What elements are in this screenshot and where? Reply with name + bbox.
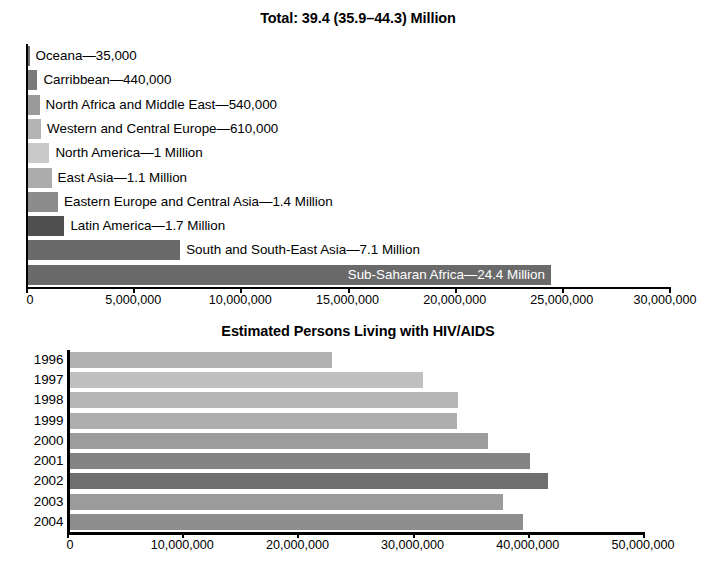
y-tick-label: 2001	[34, 451, 64, 471]
x-tick-label: 20,000,000	[266, 538, 329, 552]
x-tick-label: 10,000,000	[209, 293, 272, 307]
bar-row: Eastern Europe and Central Asia—1.4 Mill…	[28, 190, 669, 214]
bar-row: Latin America—1.7 Million	[28, 214, 669, 238]
x-tick-label: 25,000,000	[530, 293, 593, 307]
bar-row: North Africa and Middle East—540,000	[28, 93, 669, 117]
bar-data-label: East Asia—1.1 Million	[58, 167, 188, 188]
bar	[28, 70, 37, 90]
bar-row: 2004	[70, 512, 644, 532]
bar-row: Carribbean—440,000	[28, 68, 669, 92]
bar	[70, 392, 458, 408]
bar	[28, 168, 52, 188]
bar-row: Sub-Saharan Africa—24.4 Million	[28, 263, 669, 287]
x-tick-label: 20,000,000	[423, 293, 486, 307]
x-tick-label: 40,000,000	[496, 538, 559, 552]
bar	[28, 119, 41, 139]
x-tick-label: 50,000,000	[611, 538, 674, 552]
bar	[70, 494, 503, 510]
y-tick-label: 2000	[34, 431, 64, 451]
chart-top-x-axis-ticks: 05,000,00010,000,00015,000,00020,000,000…	[26, 287, 671, 313]
x-tick-label: 15,000,000	[316, 293, 379, 307]
x-tick-label: 10,000,000	[151, 538, 214, 552]
bar-data-label: Latin America—1.7 Million	[70, 215, 225, 236]
chart-regional-hiv: Total: 39.4 (35.9–44.3) Million Oceana—3…	[0, 0, 716, 312]
bar	[70, 473, 548, 489]
x-tick-label: 30,000,000	[381, 538, 444, 552]
bar-row: 2002	[70, 471, 644, 491]
bar	[28, 192, 58, 212]
bar-row: 2003	[70, 492, 644, 512]
bar-row: 1998	[70, 390, 644, 410]
y-tick-label: 2002	[34, 471, 64, 491]
y-tick-label: 1996	[34, 350, 64, 370]
bar	[28, 143, 49, 163]
x-tick-label: 0	[26, 293, 33, 307]
bar-data-label: Sub-Saharan Africa—24.4 Million	[28, 264, 551, 285]
bar	[70, 372, 424, 388]
bar-data-label: North Africa and Middle East—540,000	[46, 94, 278, 115]
bar	[28, 216, 64, 236]
bar	[28, 46, 30, 66]
chart-bottom-title: Estimated Persons Living with HIV/AIDS	[0, 323, 716, 339]
bar-row: 1996	[70, 350, 644, 370]
x-tick-label: 0	[66, 538, 73, 552]
bar-row: Western and Central Europe—610,000	[28, 117, 669, 141]
chart-bottom-x-axis-ticks: 010,000,00020,000,00030,000,00040,000,00…	[67, 532, 645, 558]
y-tick-label: 2003	[34, 492, 64, 512]
bar-data-label: Oceana—35,000	[36, 45, 137, 66]
bar	[70, 413, 457, 429]
chart-top-title: Total: 39.4 (35.9–44.3) Million	[0, 10, 716, 26]
chart-bottom-plot-area: 199619971998199920002001200220032004	[67, 350, 643, 532]
bar-data-label: South and South-East Asia—7.1 Million	[186, 239, 420, 260]
bar	[70, 453, 531, 469]
bar-data-label: North America—1 Million	[55, 142, 202, 163]
y-tick-label: 1999	[34, 411, 64, 431]
y-tick-label: 2004	[34, 512, 64, 532]
bar-row: North America—1 Million	[28, 141, 669, 165]
chart-global-hiv-trend: Estimated Persons Living with HIV/AIDS 1…	[0, 318, 716, 574]
figure: Total: 39.4 (35.9–44.3) Million Oceana—3…	[0, 0, 716, 574]
bar	[28, 240, 180, 260]
x-tick-label: 5,000,000	[105, 293, 161, 307]
bar-data-label: Eastern Europe and Central Asia—1.4 Mill…	[64, 191, 333, 212]
bar-data-label: Western and Central Europe—610,000	[47, 118, 278, 139]
bar	[70, 514, 524, 530]
y-tick-label: 1997	[34, 370, 64, 390]
bar-row: 2001	[70, 451, 644, 471]
bar-row: 1999	[70, 411, 644, 431]
bar	[28, 95, 40, 115]
x-tick-label: 30,000,000	[633, 293, 696, 307]
bar	[70, 352, 333, 368]
bar-row: East Asia—1.1 Million	[28, 166, 669, 190]
bar	[70, 433, 488, 449]
bar-row: 1997	[70, 370, 644, 390]
bar-row: Oceana—35,000	[28, 44, 669, 68]
chart-top-plot-area: Oceana—35,000Carribbean—440,000North Afr…	[26, 44, 669, 287]
y-tick-label: 1998	[34, 390, 64, 410]
bar-row: South and South-East Asia—7.1 Million	[28, 238, 669, 262]
bar-data-label: Carribbean—440,000	[43, 69, 171, 90]
bar-row: 2000	[70, 431, 644, 451]
